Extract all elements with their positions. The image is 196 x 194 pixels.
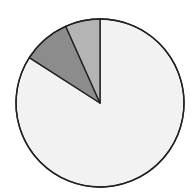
pie-slices	[16, 19, 184, 187]
pie-chart	[0, 0, 196, 194]
